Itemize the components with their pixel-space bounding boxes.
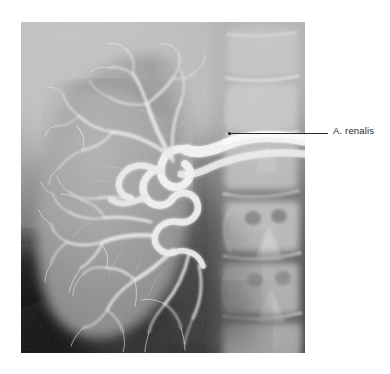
renal-arteriogram-figure: A. renalis bbox=[0, 0, 390, 374]
radiograph-svg bbox=[21, 22, 305, 353]
annotation-label-a-renalis: A. renalis bbox=[333, 126, 374, 136]
radiograph-image bbox=[21, 22, 305, 353]
